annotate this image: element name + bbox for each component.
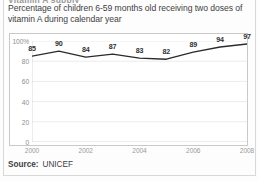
data-point-label: 82 bbox=[163, 48, 171, 56]
line-chart: 020406080100%200020022004200620088590848… bbox=[32, 41, 247, 142]
data-point-label: 97 bbox=[243, 33, 251, 41]
y-axis-tick-label: 60 bbox=[22, 78, 29, 85]
x-axis-tick-label: 2006 bbox=[186, 147, 200, 154]
source-value: UNICEF bbox=[42, 160, 72, 169]
y-axis-tick-label: 80 bbox=[22, 58, 29, 65]
x-axis-tick-label: 2000 bbox=[25, 147, 39, 154]
source-label: Source: bbox=[8, 160, 38, 169]
y-axis-tick-label: 0 bbox=[25, 139, 29, 146]
data-point-label: 83 bbox=[136, 47, 144, 55]
data-point-label: 84 bbox=[82, 46, 90, 54]
y-axis-tick-label: 100% bbox=[13, 38, 29, 45]
y-axis-tick-label: 20 bbox=[22, 118, 29, 125]
data-point-label: 94 bbox=[216, 36, 224, 44]
x-axis-tick-label: 2008 bbox=[240, 147, 254, 154]
source-note: Source:UNICEF bbox=[8, 160, 73, 169]
data-point-label: 85 bbox=[28, 45, 36, 53]
data-point-label: 89 bbox=[189, 41, 197, 49]
x-axis-tick-label: 2002 bbox=[79, 147, 93, 154]
y-axis-tick-label: 40 bbox=[22, 98, 29, 105]
line-chart-svg bbox=[32, 41, 247, 142]
data-point-label: 90 bbox=[55, 40, 63, 48]
data-point-label: 87 bbox=[109, 43, 117, 51]
x-axis-tick-label: 2004 bbox=[132, 147, 146, 154]
chart-title: Percentage of children 6-59 months old r… bbox=[8, 3, 252, 24]
figure-panel: Vitamin A supply Percentage of children … bbox=[0, 0, 259, 181]
axis-lines bbox=[32, 41, 247, 142]
